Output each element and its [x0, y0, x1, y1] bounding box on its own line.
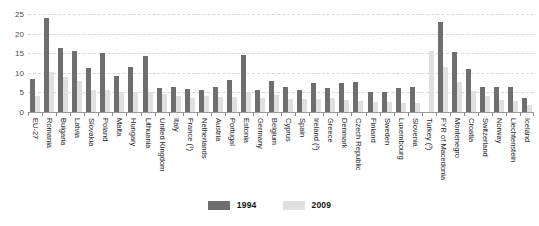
bar-2009 — [77, 81, 82, 112]
x-label-slot: Bulgaria — [56, 117, 70, 189]
bar-2009 — [232, 97, 237, 112]
bar-group — [295, 14, 309, 112]
bar-2009 — [344, 100, 349, 112]
bar-group — [141, 14, 155, 112]
bar-2009 — [387, 102, 392, 112]
x-tick-label: Germany — [256, 118, 264, 149]
x-label-slot: Cyprus — [281, 117, 295, 189]
bar-2009 — [35, 96, 40, 112]
bar-group — [380, 14, 394, 112]
bar-2009 — [63, 77, 68, 112]
bar-group — [56, 14, 70, 112]
bar-2009 — [457, 82, 462, 112]
x-tick-label: Norway — [495, 118, 503, 143]
bar-2009 — [148, 92, 153, 112]
bar-2009 — [499, 100, 504, 112]
bar-2009 — [401, 103, 406, 112]
x-tick — [98, 112, 112, 116]
x-tick — [337, 112, 351, 116]
x-tick — [520, 112, 534, 116]
x-tick-label: Luxembourg — [397, 118, 405, 160]
x-tick — [436, 112, 450, 116]
x-tick — [464, 112, 478, 116]
x-tick — [84, 112, 98, 116]
x-tick — [323, 112, 337, 116]
x-tick — [309, 112, 323, 116]
x-label-slot: Slovakia — [84, 117, 98, 189]
x-tick — [394, 112, 408, 116]
x-tick — [422, 112, 436, 116]
x-tick — [56, 112, 70, 116]
bar-group — [155, 14, 169, 112]
x-tick — [267, 112, 281, 116]
x-tick — [126, 112, 140, 116]
y-tick-label: 10 — [2, 68, 24, 77]
x-tick-label: Denmark — [341, 118, 349, 148]
bar-2009 — [373, 102, 378, 112]
x-label-slot: Montenegro — [450, 117, 464, 189]
x-tick-label: Austria — [214, 118, 222, 141]
x-tick — [183, 112, 197, 116]
x-tick-label: Finland — [369, 118, 377, 143]
x-label-slot: Czech Republic — [351, 117, 365, 189]
bar-group — [478, 14, 492, 112]
x-tick — [28, 112, 42, 116]
bar-2009 — [162, 94, 167, 112]
x-tick — [380, 112, 394, 116]
x-label-slot: Poland — [98, 117, 112, 189]
x-tick — [351, 112, 365, 116]
x-tick-label: Switzerland — [481, 118, 489, 157]
bar-group — [464, 14, 478, 112]
x-tick-label: Croatia — [467, 118, 475, 142]
bar-group — [520, 14, 534, 112]
bar-group — [169, 14, 183, 112]
x-tick — [112, 112, 126, 116]
bars-layer — [28, 14, 534, 112]
x-tick-label: Estonia — [242, 118, 250, 143]
bar-2009 — [91, 90, 96, 112]
bar-2009 — [204, 96, 209, 112]
x-tick — [506, 112, 520, 116]
bar-group — [366, 14, 380, 112]
x-tick-label: Turkey (³) — [425, 118, 433, 150]
x-label-slot: Finland — [366, 117, 380, 189]
bar-2009 — [260, 98, 265, 112]
x-tick-label: Cyprus — [284, 118, 292, 142]
x-tick-label: Lithuania — [144, 118, 152, 148]
x-tick-label: Slovenia — [411, 118, 419, 147]
x-axis-labels: EU-27RomaniaBulgariaLatviaSlovakiaPoland… — [28, 117, 534, 189]
x-label-slot: Netherlands — [197, 117, 211, 189]
x-label-slot: Hungary — [126, 117, 140, 189]
bar-2009 — [485, 96, 490, 112]
y-axis: 0510152025 — [0, 14, 24, 112]
plot-area — [28, 14, 534, 112]
x-tick-label: FYR of Macedonia — [439, 118, 447, 180]
bar-group — [422, 14, 436, 112]
bar-2009 — [176, 96, 181, 112]
x-tick-label: Sweden — [383, 118, 391, 145]
x-tick — [197, 112, 211, 116]
x-tick-label: Ireland (²) — [313, 118, 321, 151]
x-label-slot: United Kingdom — [155, 117, 169, 189]
bar-group — [197, 14, 211, 112]
x-label-slot: Italy — [169, 117, 183, 189]
x-label-slot: Croatia — [464, 117, 478, 189]
x-label-slot: EU-27 — [28, 117, 42, 189]
x-tick — [70, 112, 84, 116]
x-tick — [450, 112, 464, 116]
x-tick-label: Spain — [298, 118, 306, 137]
legend-swatch — [208, 201, 230, 210]
legend-item: 1994 — [208, 200, 257, 210]
bar-2009 — [133, 92, 138, 112]
x-tick — [169, 112, 183, 116]
bar-2009 — [513, 101, 518, 112]
bar-group — [98, 14, 112, 112]
x-tick — [141, 112, 155, 116]
bar-2009 — [429, 51, 434, 112]
x-tick — [492, 112, 506, 116]
bar-group — [84, 14, 98, 112]
x-tick-label: Bulgaria — [59, 118, 67, 146]
x-tick-label: Netherlands — [200, 118, 208, 158]
x-tick-label: Romania — [45, 118, 53, 148]
x-tick-label: Greece — [327, 118, 335, 143]
